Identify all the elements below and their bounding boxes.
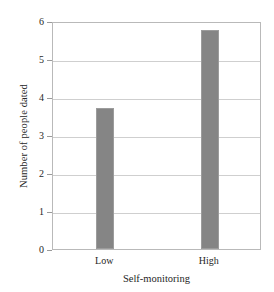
gridline (53, 175, 260, 176)
plot-area (52, 22, 261, 250)
x-axis-tick-labels: LowHigh (52, 254, 261, 270)
x-tick-label: High (199, 254, 219, 268)
bar (201, 30, 219, 249)
gridline (53, 99, 260, 100)
gridline (53, 213, 260, 214)
y-tick-mark (47, 250, 52, 251)
gridline (53, 61, 260, 62)
bar (96, 108, 114, 249)
x-tick-label: Low (95, 254, 113, 268)
bar-chart: Number of people dated 0123456 LowHigh S… (0, 0, 274, 292)
x-axis-title: Self-monitoring (52, 272, 261, 285)
gridline (53, 137, 260, 138)
